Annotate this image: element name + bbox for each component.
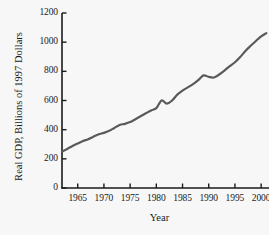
x-tick-label: 1965	[68, 194, 87, 204]
x-axis-label: Year	[62, 212, 257, 223]
y-axis-label: Real GDP, Billions of 1997 Dollars	[13, 17, 24, 197]
y-tick-label: 400	[44, 125, 58, 135]
x-tick-label: 1970	[95, 194, 114, 204]
y-tick-label: 1000	[39, 37, 58, 47]
y-tick-label: 800	[44, 67, 58, 77]
x-tick-label: 1995	[226, 194, 245, 204]
x-tick-label: 2000	[252, 194, 269, 204]
x-tick-label: 1985	[173, 194, 192, 204]
y-tick-label: 1200	[39, 8, 58, 18]
gdp-line-chart-figure: 020040060080010001200 196519701975198019…	[0, 0, 269, 235]
x-tick-label: 1975	[121, 194, 140, 204]
y-tick-label: 200	[44, 154, 58, 164]
x-tick-label: 1990	[199, 194, 218, 204]
axes-lines	[61, 13, 269, 189]
y-tick-label: 0	[53, 183, 58, 193]
x-tick-label: 1980	[147, 194, 166, 204]
gdp-data-line	[62, 33, 266, 151]
y-tick-label: 600	[44, 96, 58, 106]
